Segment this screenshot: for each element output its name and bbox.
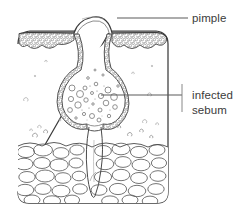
- pimple-label: pimple: [192, 12, 226, 24]
- fat-layer: [15, 143, 168, 207]
- skin-cross-section-diagram: pimple infected sebum: [0, 0, 243, 212]
- infected-sebum-label-line2: sebum: [192, 104, 227, 116]
- figure-root: pimple infected sebum: [0, 0, 243, 212]
- infected-sebum-label-line1: infected: [192, 89, 233, 101]
